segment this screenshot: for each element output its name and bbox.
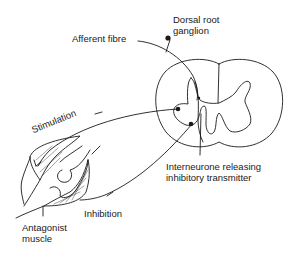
grey-matter: [174, 78, 251, 134]
reflex-diagram: Dorsal root ganglion Afferent fibre Stim…: [0, 0, 296, 254]
ganglion-stalk: [166, 40, 170, 52]
antagonist-muscle: [16, 136, 100, 218]
motor-neuron-inhib-dot: [189, 122, 194, 127]
interneurone-dot: [198, 97, 200, 99]
afferent-fibre: [138, 41, 198, 100]
afferent-fibre-label: Afferent fibre: [72, 33, 126, 44]
median-fissure: [218, 64, 219, 103]
dorsal-root-ganglion-label: Dorsal root ganglion: [173, 14, 219, 36]
motor-neuron-stim-dot: [176, 107, 181, 112]
dorsal-root-ganglion-dot: [165, 35, 170, 40]
interneurone-label: Interneurone releasing inhibitory transm…: [166, 161, 261, 183]
inhibition-label: Inhibition: [84, 208, 122, 219]
interneurone-pointer: [200, 114, 201, 155]
antagonist-muscle-label: Antagonist muscle: [22, 222, 67, 244]
stimulation-arrow-icon: [95, 112, 102, 114]
